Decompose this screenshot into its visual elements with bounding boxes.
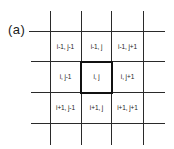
grid-cell: i, j+1	[112, 61, 143, 91]
grid-cell-center: i, j	[81, 61, 112, 91]
grid-cell: i-1, j	[81, 31, 112, 61]
grid-cell: i+1, j	[81, 92, 112, 122]
grid-cell: i-1, j-1	[50, 31, 81, 61]
grid-cell: i+1, j-1	[50, 92, 81, 122]
grid-hline-4	[31, 123, 165, 124]
grid-vline-4	[143, 11, 144, 145]
figure-label: (a)	[8, 22, 25, 37]
grid-cell: i-1, j+1	[112, 31, 143, 61]
grid-cell: i+1, j+1	[112, 92, 143, 122]
grid-cell: i, j-1	[50, 61, 81, 91]
